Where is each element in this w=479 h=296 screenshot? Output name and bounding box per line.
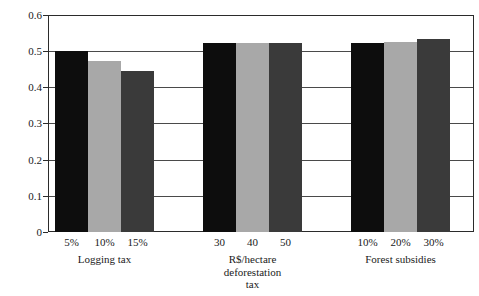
x-tick-label-subsidies-30pct: 30% (417, 236, 450, 248)
group-label-logging-tax: Logging tax (55, 253, 154, 266)
x-tick-label-deforestation-30: 30 (203, 236, 236, 248)
group-label-forest-subsidies: Forest subsidies (351, 253, 450, 266)
bar-chart: 0.6 0.5 0.4 0.3 0.2 0.1 0 (0, 0, 479, 296)
group-label-logging-tax-line-1: Logging tax (55, 253, 154, 266)
group-label-forest-subsidies-line-1: Forest subsidies (351, 253, 450, 266)
x-tick-label-deforestation-40: 40 (236, 236, 269, 248)
group-label-deforestation-tax-line-1: R$/hectare (203, 253, 302, 266)
x-tick-label-deforestation-50: 50 (269, 236, 302, 248)
group-label-deforestation-tax: R$/hectare deforestation tax (203, 253, 302, 291)
group-label-deforestation-tax-line-2: deforestation (203, 266, 302, 279)
x-tick-label-logging-10pct: 10% (88, 236, 121, 248)
x-axis: 5% 10% 15% 30 40 50 10% 20% 30% Logging … (0, 0, 479, 296)
x-tick-label-subsidies-20pct: 20% (384, 236, 417, 248)
x-tick-label-logging-15pct: 15% (121, 236, 154, 248)
group-label-deforestation-tax-line-3: tax (203, 278, 302, 291)
x-tick-label-subsidies-10pct: 10% (351, 236, 384, 248)
x-tick-label-logging-5pct: 5% (55, 236, 88, 248)
